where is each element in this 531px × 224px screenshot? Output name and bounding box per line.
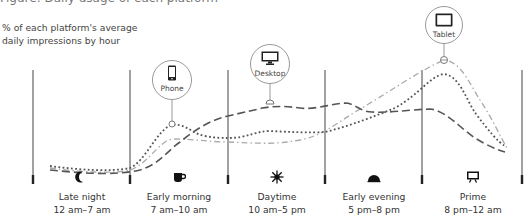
desktop-monitor-icon [261, 51, 279, 65]
tv-icon [466, 170, 480, 184]
phone-icon [167, 65, 177, 81]
desktop-series-line [50, 103, 505, 173]
period-name: Prime [425, 190, 521, 203]
moon-icon [75, 170, 89, 184]
period-early-evening: Early evening 5 pm–8 pm [326, 190, 422, 216]
period-name: Daytime [229, 190, 325, 203]
coffee-cup-icon [172, 170, 186, 184]
period-daytime: Daytime 10 am–5 pm [229, 190, 325, 216]
period-range: 7 am–10 am [131, 203, 227, 216]
period-range: 8 pm–12 am [425, 203, 521, 216]
period-name: Early morning [131, 190, 227, 203]
period-range: 5 pm–8 pm [326, 203, 422, 216]
phone-callout: Phone [152, 60, 192, 100]
sunset-icon [367, 170, 381, 184]
period-early-morning: Early morning 7 am–10 am [131, 190, 227, 216]
period-prime: Prime 8 pm–12 am [425, 190, 521, 216]
tablet-callout: Tablet [425, 6, 463, 44]
tablet-callout-label: Tablet [426, 30, 462, 39]
phone-callout-label: Phone [153, 84, 191, 93]
period-range: 10 am–5 pm [229, 203, 325, 216]
sun-icon [270, 170, 284, 184]
period-late-night: Late night 12 am–7 am [34, 190, 130, 216]
period-separators [33, 70, 522, 184]
phone-series-line [50, 74, 505, 170]
tablet-icon [435, 13, 453, 27]
period-name: Late night [34, 190, 130, 203]
period-range: 12 am–7 am [34, 203, 130, 216]
desktop-callout: Desktop [250, 44, 290, 84]
period-name: Early evening [326, 190, 422, 203]
desktop-callout-label: Desktop [251, 69, 289, 78]
